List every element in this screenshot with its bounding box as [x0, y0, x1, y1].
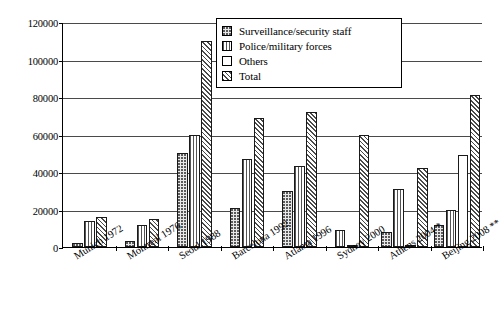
bar: [294, 166, 305, 247]
bar: [201, 41, 212, 247]
y-axis-tick-label: 120000: [28, 18, 58, 29]
y-axis-tick: [59, 248, 63, 249]
legend-label: Police/military forces: [239, 40, 332, 52]
bar-group: [431, 23, 484, 247]
x-axis-tick: [326, 246, 327, 251]
legend-item-others: Others: [222, 53, 395, 68]
x-axis-tick: [431, 246, 432, 251]
white-swatch-icon: [222, 56, 232, 66]
chart-legend: Surveillance/security staff Police/milit…: [216, 18, 402, 88]
x-axis-tick: [378, 246, 379, 251]
x-axis-tick: [168, 246, 169, 251]
legend-item-police: Police/military forces: [222, 38, 395, 53]
bar: [393, 189, 404, 247]
bar: [242, 159, 253, 247]
y-axis-tick-label: 0: [53, 243, 58, 254]
legend-label: Others: [239, 55, 268, 67]
bar: [189, 135, 200, 248]
bar-group: [116, 23, 169, 247]
y-axis-tick-label: 40000: [33, 168, 58, 179]
legend-label: Total: [239, 70, 261, 82]
bar: [254, 118, 265, 247]
bar: [470, 95, 481, 247]
x-axis-tick: [273, 246, 274, 251]
bar: [177, 153, 188, 247]
bar: [458, 155, 469, 247]
legend-item-total: Total: [222, 68, 395, 83]
x-axis-tick: [483, 246, 484, 251]
x-axis-tick: [116, 246, 117, 251]
x-axis-tick: [221, 246, 222, 251]
legend-item-surveillance: Surveillance/security staff: [222, 23, 395, 38]
y-axis-tick-label: 80000: [33, 93, 58, 104]
bar-group: [168, 23, 221, 247]
y-axis-tick-label: 60000: [33, 130, 58, 141]
diagonal-hatch-swatch-icon: [222, 71, 232, 81]
y-axis-tick-label: 100000: [28, 55, 58, 66]
bar: [335, 230, 346, 247]
vertical-lines-swatch-icon: [222, 41, 232, 51]
bar: [230, 208, 241, 247]
bar: [306, 112, 317, 247]
bar-group: [63, 23, 116, 247]
dotted-swatch-icon: [222, 26, 232, 36]
legend-label: Surveillance/security staff: [239, 25, 351, 37]
y-axis-tick-label: 20000: [33, 205, 58, 216]
